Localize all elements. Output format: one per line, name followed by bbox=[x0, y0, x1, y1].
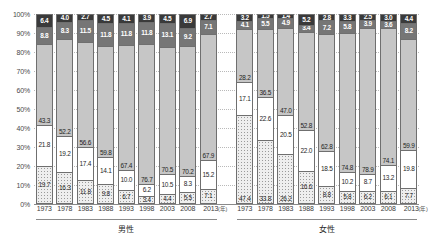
bar[interactable]: 2.87.262.818.58.8 bbox=[318, 14, 335, 204]
bar[interactable]: 5.23.452.822.016.6 bbox=[298, 14, 315, 204]
segment-value-label: 47.0 bbox=[280, 108, 291, 115]
bar-segment-white: 15.2 bbox=[200, 160, 217, 189]
bar-segment-white: 19.8 bbox=[400, 150, 417, 187]
bar[interactable]: 3.03.674.113.26.1 bbox=[380, 14, 397, 204]
bar[interactable]: 1.55.536.522.633.8 bbox=[257, 14, 274, 204]
segment-value-label: 8.8 bbox=[323, 192, 331, 199]
bar-segment-light: 74.8 bbox=[339, 33, 356, 172]
bar-segment-dark: 4.4 bbox=[400, 14, 417, 23]
bar-segment-white: 21.8 bbox=[36, 125, 53, 166]
segment-value-label: 19.2 bbox=[59, 151, 70, 158]
segment-value-label: 26.2 bbox=[280, 196, 291, 203]
segment-value-label: 4.5 bbox=[163, 16, 171, 23]
x-axis-unit: (年) bbox=[218, 206, 227, 212]
plot-area: 6.48.843.321.819.74.08.352.219.216.32.71… bbox=[34, 14, 419, 204]
segment-value-label: 52.2 bbox=[59, 129, 70, 136]
segment-value-label: 8.3 bbox=[61, 28, 69, 35]
segment-value-label: 4.1 bbox=[241, 22, 249, 29]
x-axis: 197319781983198819931998200320082013(年)1… bbox=[34, 205, 419, 217]
bar-segment-dot: 7.1 bbox=[200, 189, 217, 204]
bar[interactable]: 4.48.259.919.87.7 bbox=[400, 14, 417, 204]
segment-value-label: 76.7 bbox=[141, 177, 152, 184]
bar-segment-dot: 4.4 bbox=[159, 194, 176, 204]
segment-value-label: 15.2 bbox=[203, 172, 214, 179]
bar-segment-dark: 4.1 bbox=[118, 14, 135, 23]
segment-value-label: 28.2 bbox=[239, 75, 250, 82]
segment-value-label: 22.0 bbox=[301, 148, 312, 155]
bar-segment-mid: 11.5 bbox=[77, 20, 94, 42]
segment-value-label: 47.4 bbox=[239, 196, 250, 203]
bar-segment-dot: 16.3 bbox=[56, 172, 73, 204]
bar-segment-mid: 11.8 bbox=[97, 23, 114, 46]
bar-segment-white: 10.0 bbox=[118, 170, 135, 189]
segment-value-label: 7.7 bbox=[405, 193, 413, 200]
bar-segment-dot: 3.4 bbox=[138, 196, 155, 204]
y-tick-label: 50% bbox=[17, 106, 30, 113]
bar-segment-dark: 6.4 bbox=[36, 14, 53, 27]
bar[interactable]: 4.111.867.410.06.7 bbox=[118, 14, 135, 204]
bar-segment-light: 74.1 bbox=[380, 28, 397, 165]
segment-value-label: 11.8 bbox=[141, 30, 152, 37]
bar-segment-dark: 3.2 bbox=[236, 14, 253, 21]
x-tick-label: 1973 bbox=[235, 205, 256, 212]
x-tick-label: 1998 bbox=[137, 205, 158, 212]
bar-segment-mid: 3.4 bbox=[298, 25, 315, 32]
x-axis-unit: (年) bbox=[419, 206, 428, 212]
bar[interactable]: 3.24.128.217.147.4 bbox=[236, 14, 253, 204]
bar-segment-dot: 6.1 bbox=[380, 191, 397, 204]
segment-value-label: 7.1 bbox=[204, 193, 212, 200]
segment-value-label: 59.8 bbox=[100, 150, 111, 157]
bar-segment-white: 6.2 bbox=[138, 184, 155, 196]
x-tick-label: 1973 bbox=[34, 205, 55, 212]
y-tick-label: 90% bbox=[17, 30, 30, 37]
bar-segment-dark: 4.0 bbox=[56, 14, 73, 22]
bar[interactable]: 4.08.352.219.216.3 bbox=[56, 14, 73, 204]
bar-segment-white: 19.2 bbox=[56, 136, 73, 172]
segment-value-label: 4.4 bbox=[163, 196, 171, 203]
x-tick-label: 2013(年) bbox=[198, 205, 233, 213]
segment-value-label: 16.6 bbox=[301, 184, 312, 191]
bar-segment-light: 47.0 bbox=[277, 28, 294, 115]
bar-segment-white: 22.0 bbox=[298, 130, 315, 171]
x-tick-label: 1983 bbox=[75, 205, 96, 212]
segment-value-label: 10.2 bbox=[342, 179, 353, 186]
segment-value-label: 56.6 bbox=[80, 140, 91, 147]
bar[interactable]: 6.99.270.28.35.5 bbox=[179, 14, 196, 204]
bar[interactable]: 3.911.876.76.23.4 bbox=[138, 14, 155, 204]
segment-value-label: 9.2 bbox=[184, 34, 192, 41]
x-tick-label: 1998 bbox=[337, 205, 358, 212]
segment-value-label: 33.8 bbox=[260, 196, 271, 203]
bar-segment-white: 20.5 bbox=[277, 115, 294, 154]
group-rule bbox=[36, 219, 217, 220]
segment-value-label: 3.9 bbox=[364, 21, 372, 28]
bar[interactable]: 4.513.170.510.54.4 bbox=[159, 14, 176, 204]
segment-value-label: 6.7 bbox=[122, 194, 130, 201]
bar[interactable]: 1.44.947.020.526.2 bbox=[277, 14, 294, 204]
bar-group-male: 6.48.843.321.819.74.08.352.219.216.32.71… bbox=[34, 14, 219, 204]
segment-value-label: 6.4 bbox=[40, 18, 48, 25]
segment-value-label: 20.5 bbox=[280, 132, 291, 139]
bar-segment-mid: 11.8 bbox=[118, 23, 135, 46]
y-tick-label: 30% bbox=[17, 144, 30, 151]
segment-value-label: 6.2 bbox=[143, 187, 151, 194]
bar[interactable]: 6.48.843.321.819.7 bbox=[36, 14, 53, 204]
group-rule bbox=[237, 219, 418, 220]
bar[interactable]: 2.711.556.617.411.8 bbox=[77, 14, 94, 204]
segment-value-label: 11.8 bbox=[80, 189, 91, 196]
bar[interactable]: 3.35.874.810.25.8 bbox=[339, 14, 356, 204]
segment-value-label: 5.8 bbox=[343, 24, 351, 31]
segment-value-label: 3.4 bbox=[143, 197, 151, 204]
bar[interactable]: 4.511.859.814.19.8 bbox=[97, 14, 114, 204]
y-tick-label: 40% bbox=[17, 125, 30, 132]
segment-value-label: 18.5 bbox=[321, 166, 332, 173]
bar[interactable]: 2.53.978.98.76.2 bbox=[359, 14, 376, 204]
segment-value-label: 19.8 bbox=[403, 166, 414, 173]
segment-value-label: 6.9 bbox=[184, 18, 192, 25]
bar[interactable]: 2.77.167.915.27.1 bbox=[200, 14, 217, 204]
bar-segment-light: 52.8 bbox=[298, 32, 315, 130]
segment-value-label: 17.1 bbox=[239, 96, 250, 103]
x-tick-label: 1988 bbox=[296, 205, 317, 212]
group-label-male: 男性 bbox=[34, 223, 219, 234]
segment-value-label: 13.2 bbox=[383, 175, 394, 182]
